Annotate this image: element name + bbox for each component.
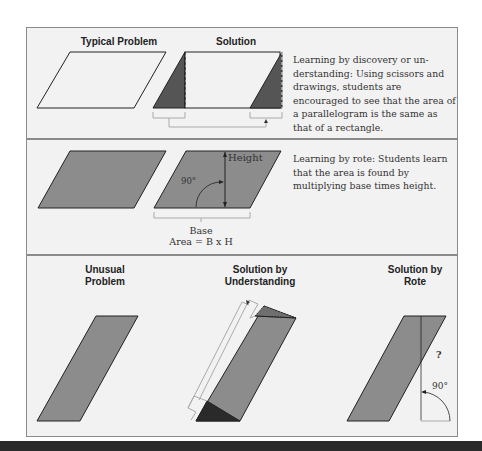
arrowhead [264,119,268,123]
heading-typical-problem: Typical Problem [64,36,174,48]
angle-label-row2: 90° [181,175,196,187]
rote-unusual-parallelogram [347,316,446,421]
bracket-left [153,112,185,118]
typical-problem-parallelogram [37,52,166,108]
height-label: Height [228,152,263,164]
heading-solution-understanding: Solution by Understanding [215,264,305,288]
angle-label-row3: 90° [432,380,448,392]
bracket-connector [169,118,266,127]
understanding-rotated-rect [188,300,296,421]
heading-unusual-problem: Unusual Problem [75,264,135,288]
description-discovery: Learning by discovery or un-derstanding:… [293,53,458,134]
question-mark: ? [436,349,442,361]
area-formula: Area = B x H [165,236,237,248]
base-bracket [154,212,250,218]
description-rote: Learning by rote: Students learn that th… [293,152,458,193]
bracket-right [250,112,282,118]
heading-solution: Solution [196,36,276,48]
unusual-parallelogram [37,316,138,421]
rote-parallelogram-1 [38,151,166,208]
heading-solution-rote: Solution by Rote [375,264,455,288]
